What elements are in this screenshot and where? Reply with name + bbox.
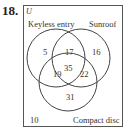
set-label-sunroof: Sunroof	[89, 19, 117, 29]
region-ab-only: 17	[65, 47, 74, 57]
region-b-only: 16	[92, 47, 101, 57]
region-c-only: 31	[66, 92, 75, 102]
universe-label: U	[26, 7, 33, 16]
region-a-only: 5	[43, 47, 47, 57]
set-label-keyless-entry: Keyless entry	[28, 19, 75, 29]
circle-compact-disc	[39, 53, 97, 111]
region-ac-only: 19	[53, 69, 62, 79]
region-bc-only: 22	[80, 69, 89, 79]
region-outside: 10	[30, 115, 39, 125]
set-label-compact-disc: Compact disc	[73, 115, 120, 125]
region-abc: 35	[64, 63, 73, 73]
venn-diagram: U Keyless entry Sunroof Compact disc 5 1…	[0, 0, 130, 130]
